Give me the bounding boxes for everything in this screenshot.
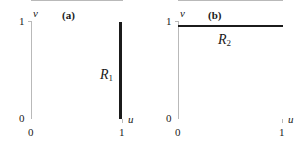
panel-a-u-axis-line [31,0,123,1]
panel-b-u-axis-tick-1 [282,119,283,123]
panel-b-caption: (b) [208,10,221,21]
panel-b-v-axis-tick-1 [175,21,179,22]
panel-a-v-tick-label-min: 0 [19,113,25,124]
panel-a-u-axis-tick-1 [122,119,123,123]
region-r1-symbol: R [100,67,109,82]
figure-container: (a) v u 1 0 0 1 R1 (b) v u 1 0 0 1 R2 [0,0,297,153]
panel-a-u-tick-label-min: 0 [28,127,34,138]
panel-a-v-axis-line [31,21,32,119]
panel-b-v-axis-label: v [180,8,185,19]
region-r2-segment [178,25,283,27]
region-r1-segment [119,22,122,119]
panel-b-u-tick-label-min: 0 [175,127,181,138]
panel-b-v-axis-line [178,21,179,119]
panel-a-caption: (a) [62,10,75,21]
panel-b: (b) v u 1 0 0 1 R2 [148,0,296,153]
panel-b-v-tick-label-max: 1 [166,16,172,27]
region-r1-label: R1 [100,68,113,82]
panel-a-v-axis-label: v [33,8,38,19]
panel-a-v-tick-label-max: 1 [19,16,25,27]
panel-b-v-tick-label-min: 0 [166,113,172,124]
panel-a-u-tick-label-max: 1 [119,127,125,138]
region-r2-label: R2 [218,33,231,47]
panel-b-u-tick-label-max: 1 [279,127,285,138]
panel-b-u-axis-line [178,0,283,1]
panel-a-v-axis-tick-1 [28,21,32,22]
region-r2-subscript: 2 [227,38,232,48]
panel-a-u-axis-label: u [128,114,134,125]
region-r2-symbol: R [218,32,227,47]
panel-b-u-axis-label: u [288,114,294,125]
region-r1-subscript: 1 [109,73,114,83]
panel-a: (a) v u 1 0 0 1 R1 [0,0,148,153]
